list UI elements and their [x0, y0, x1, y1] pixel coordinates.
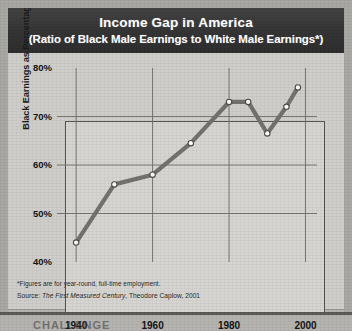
- x-tick-label: 1980: [209, 320, 249, 331]
- y-tick-label: 40%: [22, 257, 52, 267]
- chart-title: Income Gap in America: [8, 15, 344, 30]
- y-tick-label: 70%: [22, 112, 52, 122]
- y-tick-label: 50%: [22, 209, 52, 219]
- page-left-margin: [0, 0, 8, 312]
- page-right-margin: [344, 0, 352, 312]
- y-tick-label: 80%: [22, 63, 52, 73]
- x-tick-label: 2000: [286, 320, 326, 331]
- x-tick-label: 1960: [133, 320, 173, 331]
- section-divider-rule: [0, 312, 352, 315]
- scanned-page: Income Gap in America (Ratio of Black Ma…: [0, 0, 352, 331]
- source-prefix: Source:: [17, 292, 42, 299]
- y-tick-label: 60%: [22, 160, 52, 170]
- footnote-source: Source: The First Measured Century, Theo…: [17, 292, 200, 300]
- footnote-figures: *Figures are for year-round, full-time e…: [17, 280, 161, 288]
- chart-body: Black Earnings as Percentage of White Ea…: [8, 53, 344, 309]
- chart-subtitle: (Ratio of Black Male Earnings to White M…: [8, 32, 344, 46]
- page-top-margin: [0, 0, 352, 8]
- next-section-heading: CHALLENGE: [33, 319, 110, 331]
- chart-header-banner: Income Gap in America (Ratio of Black Ma…: [8, 8, 344, 53]
- source-rest: , Theodore Caplow, 2001: [125, 292, 200, 299]
- source-title: The First Measured Century: [42, 292, 125, 299]
